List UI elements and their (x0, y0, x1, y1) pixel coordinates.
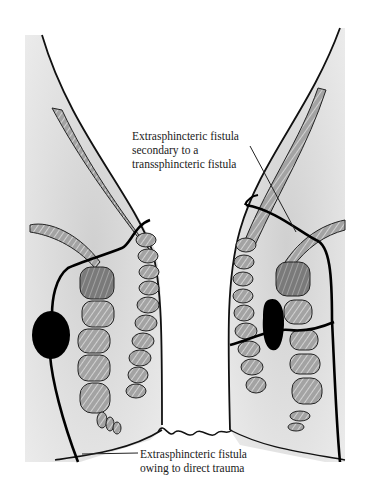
label-top-line-2: secondary to a (132, 143, 239, 157)
left-abscess (32, 311, 70, 359)
label-extrasphincteric-secondary: Extrasphincteric fistula secondary to a … (132, 129, 239, 171)
label-top-line-3: transsphincteric fistula (132, 157, 239, 171)
label-top-line-1: Extrasphincteric fistula (132, 129, 239, 143)
anal-verge (158, 428, 232, 435)
fistula-diagram: Extrasphincteric fistula secondary to a … (0, 0, 372, 492)
right-abscess (263, 299, 284, 350)
anatomy-illustration (0, 0, 372, 492)
label-extrasphincteric-trauma: Extrasphincteric fistula owing to direct… (140, 447, 247, 475)
label-bottom-line-1: Extrasphincteric fistula (140, 447, 247, 461)
label-bottom-line-2: owing to direct trauma (140, 461, 247, 475)
